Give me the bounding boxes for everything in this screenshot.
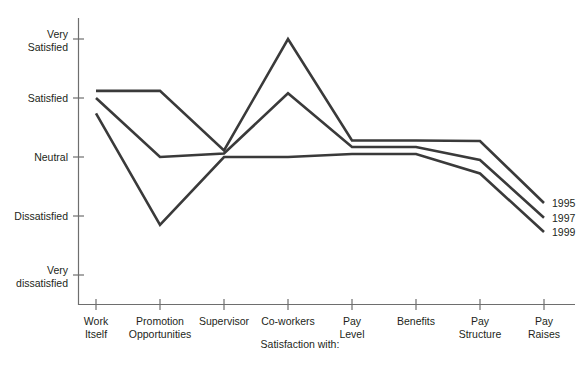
x-tick-label: Co-workers xyxy=(261,315,315,327)
svg-text:Very: Very xyxy=(47,28,69,40)
svg-text:Satisfied: Satisfied xyxy=(28,41,68,53)
legend-label-1999: 1999 xyxy=(552,226,576,238)
svg-text:Raises: Raises xyxy=(528,328,560,340)
svg-text:dissatisfied: dissatisfied xyxy=(16,277,68,289)
svg-text:Satisfied: Satisfied xyxy=(28,92,68,104)
x-axis-title: Satisfaction with: xyxy=(261,338,340,350)
svg-text:Dissatisfied: Dissatisfied xyxy=(14,210,68,222)
x-tick-label: Benefits xyxy=(397,315,435,327)
x-tick-label-group: WorkItselfPromotionOpportunitiesSupervis… xyxy=(84,315,560,340)
y-tick-label-group: VerySatisfiedSatisfiedNeutralDissatisfie… xyxy=(14,28,68,289)
x-tick-label: Supervisor xyxy=(199,315,250,327)
satisfaction-line-chart: VerySatisfiedSatisfiedNeutralDissatisfie… xyxy=(0,0,581,366)
svg-text:Supervisor: Supervisor xyxy=(199,315,250,327)
svg-text:Level: Level xyxy=(339,328,364,340)
svg-text:Co-workers: Co-workers xyxy=(261,315,315,327)
svg-text:Promotion: Promotion xyxy=(136,315,184,327)
chart-svg: VerySatisfiedSatisfiedNeutralDissatisfie… xyxy=(0,0,581,366)
x-tick-label: PayStructure xyxy=(459,315,502,340)
x-tick-label: WorkItself xyxy=(84,315,109,340)
x-tick-label: PromotionOpportunities xyxy=(129,315,191,340)
y-tick-label: Dissatisfied xyxy=(14,210,68,222)
svg-text:Pay: Pay xyxy=(535,315,554,327)
x-tick-label: PayLevel xyxy=(339,315,364,340)
y-tick-label: VerySatisfied xyxy=(28,28,69,53)
y-tick-label: Satisfied xyxy=(28,92,68,104)
x-tick-label: PayRaises xyxy=(528,315,560,340)
svg-text:Itself: Itself xyxy=(85,328,107,340)
svg-text:Structure: Structure xyxy=(459,328,502,340)
legend-group: 199519971999 xyxy=(552,197,576,238)
series-group xyxy=(96,39,544,232)
y-tick-label: Neutral xyxy=(34,151,68,163)
svg-text:Benefits: Benefits xyxy=(397,315,435,327)
y-tick-label: Verydissatisfied xyxy=(16,264,69,289)
legend-label-1997: 1997 xyxy=(552,212,576,224)
svg-text:Opportunities: Opportunities xyxy=(129,328,191,340)
svg-text:Work: Work xyxy=(84,315,109,327)
svg-text:Pay: Pay xyxy=(343,315,362,327)
series-line-1999 xyxy=(96,113,544,232)
svg-text:Neutral: Neutral xyxy=(34,151,68,163)
legend-label-1995: 1995 xyxy=(552,197,576,209)
svg-text:Very: Very xyxy=(47,264,69,276)
svg-text:Pay: Pay xyxy=(471,315,490,327)
